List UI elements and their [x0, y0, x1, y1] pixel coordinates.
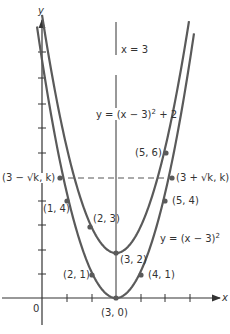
y-axis-label: y: [38, 6, 44, 16]
x-axis-label: x: [222, 293, 228, 303]
point-label-4-1: (4, 1): [148, 270, 175, 280]
point-label-3-0: (3, 0): [101, 308, 128, 318]
graph-canvas: [0, 0, 230, 334]
point-label-3-2: (3, 2): [120, 255, 147, 265]
point-label-5-4: (5, 4): [172, 196, 199, 206]
point-label-1-4: (1, 4): [43, 204, 70, 214]
point-label-2-3: (2, 3): [93, 214, 120, 224]
point-label-right-k: (3 + √k, k): [176, 173, 229, 183]
origin-label: 0: [33, 304, 39, 314]
point-label-5-6: (5, 6): [135, 148, 162, 158]
inner-curve-equation: y = (x − 3)2 + 2: [96, 110, 177, 120]
symmetry-label: x = 3: [121, 45, 148, 55]
point-label-2-1: (2, 1): [63, 270, 90, 280]
outer-curve-equation: y = (x − 3)2: [160, 234, 220, 244]
parabola-diagram: y x 0 x = 3 y = (x − 3)2 + 2 y = (x − 3)…: [0, 0, 230, 334]
point-label-left-k: (3 − √k, k): [2, 173, 55, 183]
